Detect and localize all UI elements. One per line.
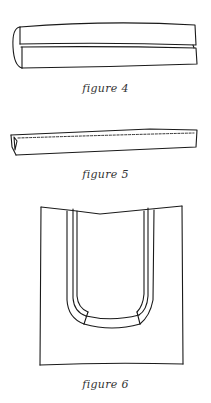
figure-6-bag-drawing xyxy=(40,206,183,365)
figure-5-caption: figure 5 xyxy=(0,168,211,181)
figure-4-strip-drawing xyxy=(13,23,197,68)
illustration-canvas xyxy=(0,0,211,403)
figure-4-caption: figure 4 xyxy=(0,82,211,95)
figure-6-caption: figure 6 xyxy=(0,378,211,391)
figure-5-strip-drawing xyxy=(11,129,197,155)
